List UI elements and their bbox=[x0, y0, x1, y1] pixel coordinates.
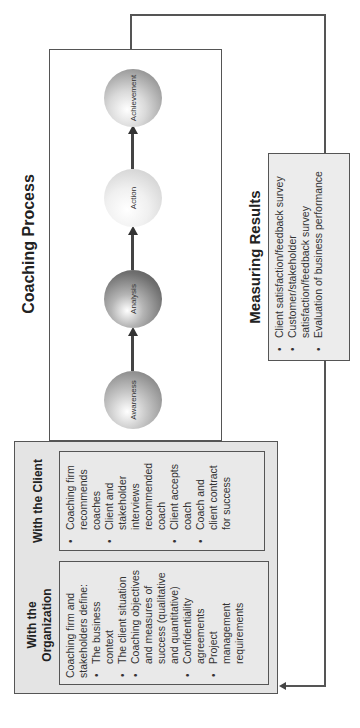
client-item: Client accepts coach bbox=[168, 458, 194, 544]
engagement-box: With the Organization Coaching firm and … bbox=[14, 441, 278, 694]
connector-process-to-results bbox=[324, 15, 326, 153]
stage-action: Action bbox=[104, 169, 162, 227]
results-item: Evaluation of business performance bbox=[312, 162, 325, 352]
organization-item: The business context bbox=[90, 568, 116, 678]
with-client-title: With the Client bbox=[31, 449, 45, 553]
coaching-diagram: Coaching Process Awareness Analysis Acti… bbox=[0, 0, 360, 728]
measuring-results-title: Measuring Results bbox=[246, 153, 263, 361]
organization-item: Project management requirements bbox=[207, 568, 246, 678]
arrow-right-icon bbox=[128, 327, 138, 336]
flow-arrow bbox=[131, 333, 134, 371]
connector-process-to-results bbox=[130, 15, 132, 49]
organization-intro: Coaching firm and stakeholders define: bbox=[64, 568, 90, 678]
flow-arrow bbox=[131, 131, 134, 169]
client-item: Coach and client contract for success bbox=[194, 458, 233, 544]
with-organization-box: Coaching firm and stakeholders define: T… bbox=[59, 561, 269, 685]
with-organization-title: With the Organization bbox=[25, 565, 55, 685]
connector-results-to-organization bbox=[324, 361, 326, 687]
stage-analysis: Analysis bbox=[104, 270, 162, 328]
organization-item: Coaching objectives and measures of succ… bbox=[129, 568, 181, 678]
connector-process-to-results bbox=[130, 15, 326, 17]
results-item: Client satisfaction/feedback survey bbox=[273, 162, 286, 352]
client-item: Coaching firm recommends coaches bbox=[64, 458, 103, 544]
arrow-into-organization-icon bbox=[279, 682, 286, 690]
with-client-box: Coaching firm recommends coaches Client … bbox=[59, 451, 265, 551]
measuring-results-box: Client satisfaction/feedback survey Cust… bbox=[268, 153, 350, 361]
organization-item: The client situation bbox=[116, 568, 129, 678]
results-item: Customer/stakeholder satisfaction/feedba… bbox=[286, 162, 312, 352]
client-item: Client and stakeholder interviews recomm… bbox=[103, 458, 168, 544]
stage-achievement: Achievement bbox=[104, 69, 162, 127]
arrow-right-icon bbox=[128, 226, 138, 235]
organization-item: Confidentiality agreements bbox=[181, 568, 207, 678]
connector-results-to-organization bbox=[282, 686, 326, 688]
flow-arrow bbox=[131, 232, 134, 270]
stage-awareness: Awareness bbox=[104, 371, 162, 429]
coaching-process-title: Coaching Process bbox=[20, 48, 38, 440]
